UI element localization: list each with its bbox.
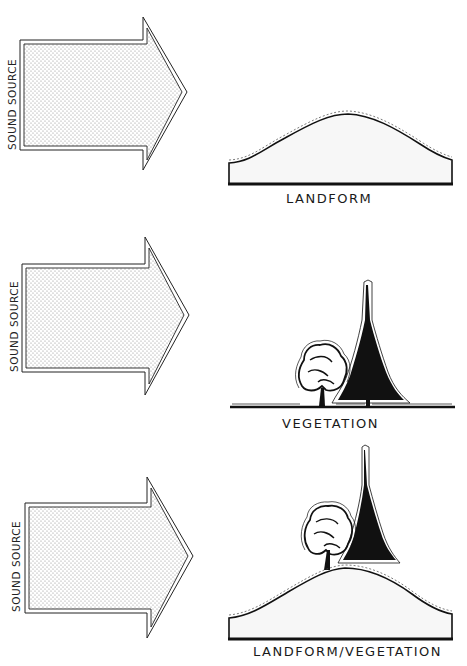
sound-source-arrow-2 (22, 237, 189, 395)
landform-vegetation-group-3 (228, 445, 453, 639)
sound-source-arrow-1 (20, 17, 187, 170)
caption-landform: LANDFORM (286, 191, 372, 206)
conifer-tree-icon (338, 445, 400, 563)
landform-hill-1 (228, 111, 453, 184)
sound-source-label-1: SOUND SOURCE (6, 59, 18, 150)
conifer-tree-icon (332, 280, 410, 406)
diagram-canvas (0, 0, 467, 666)
caption-vegetation: VEGETATION (282, 416, 379, 431)
sound-source-label-3: SOUND SOURCE (10, 521, 22, 612)
caption-landform-vegetation: LANDFORM/VEGETATION (253, 644, 442, 659)
sound-source-arrow-3 (25, 477, 193, 638)
vegetation-group-2 (230, 280, 455, 407)
sound-source-label-2: SOUND SOURCE (8, 281, 20, 372)
